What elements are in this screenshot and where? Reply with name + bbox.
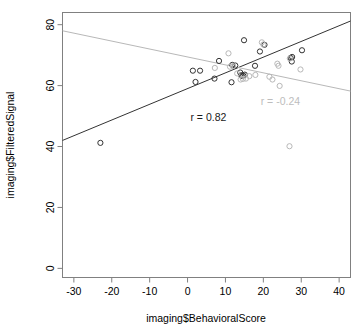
x-tick-label: 40 (333, 285, 345, 297)
x-tick-label: 20 (257, 285, 269, 297)
gray-regression-line-label: r = -0.24 (261, 95, 301, 107)
x-axis-title: imaging$BehavioralScore (146, 312, 266, 324)
x-tick-label: 0 (185, 285, 191, 297)
y-tick-label: 60 (45, 80, 57, 92)
x-tick-label: -20 (104, 285, 119, 297)
plot-canvas: -30-20-10010203040 020406080 r = 0.82r =… (0, 0, 364, 334)
x-tick-label: 10 (220, 285, 232, 297)
scatter-plot-figure: -30-20-10010203040 020406080 r = 0.82r =… (0, 0, 364, 334)
figure-background (0, 0, 364, 334)
y-tick-label: 40 (45, 141, 57, 153)
y-tick-label: 0 (45, 265, 57, 271)
x-tick-label: 30 (295, 285, 307, 297)
black-regression-line-label: r = 0.82 (190, 111, 226, 123)
y-tick-label: 80 (45, 19, 57, 31)
x-tick-label: -30 (66, 285, 81, 297)
y-axis-title: imaging$FilteredSignal (4, 92, 16, 199)
x-tick-label: -10 (142, 285, 157, 297)
y-tick-label: 20 (45, 201, 57, 213)
